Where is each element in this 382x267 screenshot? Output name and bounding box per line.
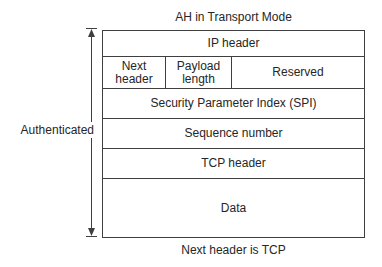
field-reserved: Reserved: [232, 57, 364, 88]
ah-fields-row: Next header Payload length Reserved: [103, 57, 364, 89]
authenticated-label: Authenticated: [7, 122, 96, 138]
field-spi: Security Parameter Index (SPI): [103, 89, 364, 119]
field-next-header: Next header: [103, 57, 166, 88]
field-sequence-number: Sequence number: [103, 119, 364, 149]
arrow-down-head: [88, 228, 95, 236]
ah-transport-mode-figure: AH in Transport Mode Authenticated IP he…: [0, 0, 382, 267]
figure-caption: Next header is TCP: [102, 243, 365, 257]
figure-title: AH in Transport Mode: [102, 10, 365, 24]
field-data: Data: [103, 179, 364, 237]
field-ip-header: IP header: [103, 31, 364, 57]
field-payload-length: Payload length: [166, 57, 232, 88]
field-tcp-header: TCP header: [103, 149, 364, 179]
packet-diagram: IP header Next header Payload length Res…: [102, 30, 365, 238]
